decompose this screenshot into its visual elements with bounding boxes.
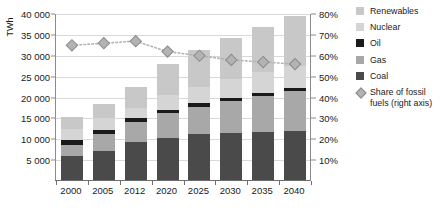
legend-swatch-icon xyxy=(356,56,364,64)
legend-item[interactable]: Gas xyxy=(356,55,440,66)
y2-axis-tickmark xyxy=(311,139,316,140)
bar-segment[interactable] xyxy=(252,27,274,73)
bar-segment[interactable] xyxy=(284,131,306,181)
bar-column[interactable] xyxy=(188,50,210,181)
y2-axis-tick-label: 30% xyxy=(319,113,338,124)
bar-segment[interactable] xyxy=(125,142,147,181)
y-axis-tick-label: 20 000 xyxy=(2,92,50,103)
y-axis-tickmark xyxy=(51,118,55,119)
bar-segment[interactable] xyxy=(93,118,115,130)
y2-axis-tick-label: 70% xyxy=(319,29,338,40)
y-axis-tick-label: 5 000 xyxy=(2,155,50,166)
bar-segment[interactable] xyxy=(125,87,147,107)
bar-segment[interactable] xyxy=(188,134,210,181)
x-axis-tickmark xyxy=(215,181,216,185)
bar-segment[interactable] xyxy=(252,72,274,92)
x-axis-tick-label: 2020 xyxy=(156,185,177,196)
bar-segment[interactable] xyxy=(61,145,83,156)
bar-segment[interactable] xyxy=(284,66,306,88)
bar-segment[interactable] xyxy=(93,151,115,181)
x-axis-tickmark xyxy=(247,181,248,185)
legend-item-label: Oil xyxy=(370,38,381,49)
y-axis-tick-label: 15 000 xyxy=(2,113,50,124)
gridline xyxy=(56,14,311,15)
bar-column[interactable] xyxy=(157,64,179,181)
x-axis-tick-label: 2025 xyxy=(188,185,209,196)
y-axis-tickmark xyxy=(51,97,55,98)
bar-column[interactable] xyxy=(220,38,242,181)
y-axis-tickmark xyxy=(51,160,55,161)
legend-swatch-icon xyxy=(356,39,364,47)
x-axis-tick-label: 2040 xyxy=(283,185,304,196)
legend-item[interactable]: Coal xyxy=(356,71,440,82)
legend-item[interactable]: Oil xyxy=(356,38,440,49)
legend-item-label: Coal xyxy=(370,71,388,82)
bar-segment[interactable] xyxy=(188,87,210,103)
x-axis-tickmark xyxy=(56,181,57,185)
legend-item-label: Renewables xyxy=(370,6,418,17)
y2-axis-tickmark xyxy=(311,118,316,119)
legend-item-label: Share of fossil fuels (right axis) xyxy=(370,87,440,108)
bar-segment[interactable] xyxy=(220,133,242,181)
legend-item[interactable]: Share of fossil fuels (right axis) xyxy=(356,87,440,108)
fossil-share-marker[interactable] xyxy=(98,38,109,49)
plot-area xyxy=(55,14,311,181)
bar-segment[interactable] xyxy=(188,107,210,135)
x-axis-tickmark xyxy=(152,181,153,185)
bar-segment[interactable] xyxy=(157,113,179,138)
x-axis-tick-label: 2000 xyxy=(60,185,81,196)
bar-column[interactable] xyxy=(252,27,274,181)
y2-axis-tickmark xyxy=(311,14,316,15)
bar-segment[interactable] xyxy=(157,138,179,181)
y2-axis-tickmark xyxy=(311,76,316,77)
y2-axis-tick-label: 20% xyxy=(319,134,338,145)
legend-item[interactable]: Renewables xyxy=(356,6,440,17)
bar-segment[interactable] xyxy=(61,156,83,181)
legend-item-label: Gas xyxy=(370,55,386,66)
y-axis-tick-label: 25 000 xyxy=(2,71,50,82)
x-axis-tick-label: 2035 xyxy=(252,185,273,196)
y2-axis-tick-label: 40% xyxy=(319,92,338,103)
bar-segment[interactable] xyxy=(284,16,306,66)
bar-segment[interactable] xyxy=(252,132,274,181)
bar-segment[interactable] xyxy=(284,91,306,131)
bar-segment[interactable] xyxy=(157,64,179,96)
bar-segment[interactable] xyxy=(125,108,147,118)
bar-column[interactable] xyxy=(125,87,147,181)
bar-segment[interactable] xyxy=(157,95,179,109)
bar-segment[interactable] xyxy=(61,117,83,129)
legend-swatch-icon xyxy=(356,7,364,15)
x-axis-tickmark xyxy=(120,181,121,185)
y-axis-tickmark xyxy=(51,14,55,15)
y-axis-tickmark xyxy=(51,34,55,35)
bar-segment[interactable] xyxy=(93,134,115,150)
bar-segment[interactable] xyxy=(220,38,242,79)
diamond-marker-icon xyxy=(356,88,365,97)
y2-axis-tickmark xyxy=(311,160,316,161)
bar-segment[interactable] xyxy=(220,101,242,133)
bar-segment[interactable] xyxy=(252,96,274,132)
y-axis-tickmark xyxy=(51,139,55,140)
bar-column[interactable] xyxy=(284,16,306,181)
chart-container: TWh 5 00010 00015 00020 00025 00030 0003… xyxy=(0,0,440,211)
y2-axis-tick-label: 50% xyxy=(319,71,338,82)
legend-item-label: Nuclear xyxy=(370,22,400,33)
y-axis-tick-label: 30 000 xyxy=(2,50,50,61)
bar-segment[interactable] xyxy=(93,104,115,118)
bar-column[interactable] xyxy=(93,104,115,181)
y-axis-left-ticks: 5 00010 00015 00020 00025 00030 00035 00… xyxy=(0,0,50,211)
y2-axis-tick-label: 10% xyxy=(319,155,338,166)
bar-segment[interactable] xyxy=(188,50,210,87)
x-axis-tickmark xyxy=(279,181,280,185)
legend-swatch-icon xyxy=(356,23,364,31)
bar-segment[interactable] xyxy=(220,79,242,97)
bar-segment[interactable] xyxy=(125,122,147,142)
x-axis-tickmark xyxy=(88,181,89,185)
y2-axis-tickmark xyxy=(311,55,316,56)
bar-segment[interactable] xyxy=(61,129,83,140)
fossil-share-marker[interactable] xyxy=(130,35,141,46)
y2-axis-tick-label: 80% xyxy=(319,9,338,20)
fossil-share-marker[interactable] xyxy=(66,40,77,51)
bar-column[interactable] xyxy=(61,117,83,181)
legend-item[interactable]: Nuclear xyxy=(356,22,440,33)
